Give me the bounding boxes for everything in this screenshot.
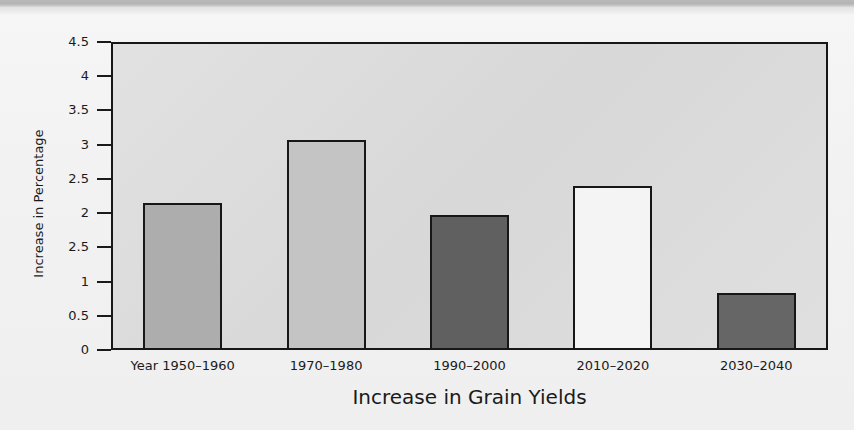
y-tick-label: 0.5 xyxy=(31,309,89,322)
x-tick-label: 2030–2040 xyxy=(685,359,828,372)
x-tick-label: 2010–2020 xyxy=(541,359,684,372)
y-tick-label: 4 xyxy=(31,69,89,82)
x-tick-label: 1970–1980 xyxy=(254,359,397,372)
y-tick-mark xyxy=(97,281,111,283)
y-tick-label: 0 xyxy=(31,343,89,356)
y-tick-mark xyxy=(97,178,111,180)
scanned-page: 4.543.532.522.510.50 Increase in Percent… xyxy=(0,0,854,430)
y-tick-label: 4.5 xyxy=(31,35,89,48)
y-tick-mark xyxy=(97,41,111,43)
bar-chart: 4.543.532.522.510.50 Increase in Percent… xyxy=(0,0,854,430)
y-tick-mark xyxy=(97,75,111,77)
x-tick-label: Year 1950–1960 xyxy=(111,359,254,372)
x-axis-title: Increase in Grain Yields xyxy=(111,385,828,409)
y-tick-mark xyxy=(97,315,111,317)
y-tick-mark xyxy=(97,144,111,146)
y-tick-mark xyxy=(97,246,111,248)
y-tick-mark xyxy=(97,212,111,214)
y-axis-title: Increase in Percentage xyxy=(31,104,46,304)
y-tick-mark xyxy=(97,109,111,111)
x-tick-label: 1990–2000 xyxy=(398,359,541,372)
y-tick-mark xyxy=(97,349,111,351)
